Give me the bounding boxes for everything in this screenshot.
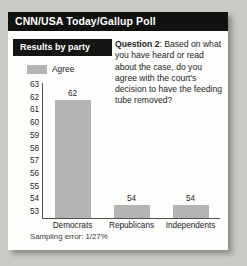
results-by-party-label-box: Results by party — [13, 39, 112, 56]
poll-graphic: CNN/USA Today/Gallup Poll Results by par… — [0, 0, 247, 266]
bar-value-label: 54 — [173, 194, 209, 203]
bar-chart: 6362616059585756555453 625454 DemocratsR… — [22, 81, 222, 226]
y-axis-ticks: 6362616059585756555453 — [22, 81, 39, 226]
legend-label-agree: Agree — [52, 64, 74, 74]
y-axis-tick: 59 — [23, 132, 39, 140]
y-axis-tick: 63 — [23, 81, 39, 89]
y-axis-tick: 60 — [23, 119, 39, 127]
title-bar: CNN/USA Today/Gallup Poll — [8, 12, 228, 31]
y-axis-tick: 55 — [23, 183, 39, 191]
y-axis-tick: 56 — [23, 170, 39, 178]
y-axis-tick: 58 — [23, 145, 39, 153]
bar-column: 54 — [173, 83, 209, 218]
x-axis-label: Republicans — [102, 221, 161, 230]
bar-column: 62 — [55, 83, 91, 218]
y-axis-tick: 57 — [23, 157, 39, 165]
bar — [55, 100, 91, 218]
bar-value-label: 54 — [114, 194, 150, 203]
x-axis-label: Democrats — [43, 221, 102, 230]
legend-swatch-agree — [27, 65, 47, 74]
bar-series-agree: 625454 — [43, 83, 220, 218]
x-axis-label: Independents — [161, 221, 220, 230]
y-axis-tick: 61 — [23, 106, 39, 114]
y-axis-tick: 54 — [23, 195, 39, 203]
page-title: CNN/USA Today/Gallup Poll — [15, 15, 156, 27]
bar — [173, 205, 209, 218]
bar — [114, 205, 150, 218]
y-axis-tick: 53 — [23, 208, 39, 216]
question-number: Question 2 — [115, 39, 159, 49]
bar-column: 54 — [114, 83, 150, 218]
results-by-party-label: Results by party — [20, 42, 90, 52]
chart-legend: Agree — [27, 64, 74, 74]
poll-card: CNN/USA Today/Gallup Poll Results by par… — [8, 12, 228, 250]
sampling-error-note: Sampling error: 1/27% — [30, 232, 108, 241]
y-axis-tick: 62 — [23, 94, 39, 102]
bar-value-label: 62 — [55, 89, 91, 98]
x-axis-line — [42, 218, 220, 219]
